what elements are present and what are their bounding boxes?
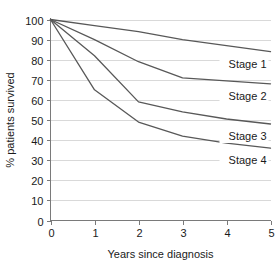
x-tick-label-3: 3 (180, 227, 186, 239)
y-tick-label-10: 10 (31, 195, 43, 207)
y-tick-label-80: 80 (31, 55, 43, 67)
x-tick-label-2: 2 (136, 227, 142, 239)
x-tick-label-0: 0 (48, 227, 54, 239)
y-tick-label-20: 20 (31, 175, 43, 187)
series-label-1: Stage 1 (229, 58, 267, 70)
survival-chart-plot: 0102030405060708090100 012345 Stage 1Sta… (0, 0, 279, 260)
series-label-4: Stage 4 (229, 154, 267, 166)
survival-chart-figure: 0102030405060708090100 012345 Stage 1Sta… (0, 0, 279, 260)
y-tick-label-100: 100 (25, 15, 43, 27)
x-axis-title: Years since diagnosis (108, 248, 214, 260)
y-tick-label-30: 30 (31, 155, 43, 167)
series-lines-group (51, 20, 271, 149)
x-tick-label-1: 1 (92, 227, 98, 239)
y-tick-label-40: 40 (31, 135, 43, 147)
y-tick-label-50: 50 (31, 115, 43, 127)
x-tick-label-4: 4 (224, 227, 230, 239)
series-label-3: Stage 3 (229, 130, 267, 142)
y-tick-label-60: 60 (31, 95, 43, 107)
series-label-2: Stage 2 (229, 90, 267, 102)
y-tick-label-70: 70 (31, 75, 43, 87)
x-tick-label-5: 5 (268, 227, 274, 239)
y-axis-ticks-group: 0102030405060708090100 (25, 15, 50, 228)
y-tick-label-90: 90 (31, 35, 43, 47)
series-labels-group: Stage 1Stage 2Stage 3Stage 4 (220, 58, 269, 167)
y-axis-title: % patients survived (4, 72, 16, 167)
axes-group (51, 18, 271, 221)
series-line-4 (51, 20, 271, 149)
y-tick-label-0: 0 (37, 216, 43, 228)
x-axis-ticks-group: 012345 (48, 221, 274, 239)
series-line-2 (51, 20, 271, 84)
